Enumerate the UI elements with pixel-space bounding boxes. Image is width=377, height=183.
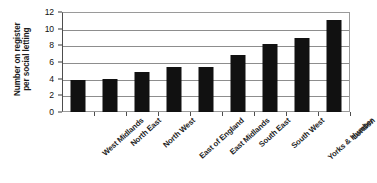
bar-slot [62,12,94,112]
y-axis-tick-label: 12 [14,7,54,17]
bar [103,79,118,112]
y-axis-tick-label: 6 [14,57,54,67]
x-axis-tick-label: East of England [198,116,246,161]
bar [231,55,246,112]
bar-slot [286,12,318,112]
y-axis-tick-label: 8 [14,40,54,50]
bar [71,80,86,113]
x-axis-tick-mark [350,112,351,116]
bar [327,20,342,113]
bar-slot [222,12,254,112]
bar [263,44,278,112]
bar [167,67,182,112]
bar [295,38,310,112]
y-axis-tick-label: 2 [14,90,54,100]
bar [199,67,214,112]
bar-slot [254,12,286,112]
x-axis-labels: West MidlandsNorth EastNorth WestEast of… [62,116,350,182]
bar-slot [126,12,158,112]
bar-slot [94,12,126,112]
bar-slot [190,12,222,112]
bar-slot [318,12,350,112]
bar [135,72,150,112]
bar-slot [158,12,190,112]
y-axis-tick-label: 4 [14,74,54,84]
x-axis-tick-label: South West [290,116,327,150]
y-axis-tick-label: 0 [14,107,54,117]
x-axis-tick-label: North West [161,116,197,149]
y-axis-tick-label: 10 [14,24,54,34]
bars-series [62,12,350,112]
